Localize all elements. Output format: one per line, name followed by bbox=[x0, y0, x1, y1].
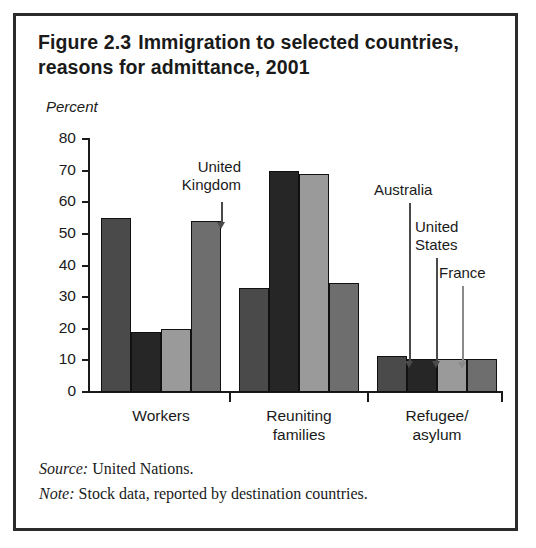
y-tick-label: 10 bbox=[36, 350, 76, 368]
source-text: United Nations. bbox=[92, 460, 193, 477]
source-line: Source: United Nations. bbox=[39, 456, 499, 481]
callout-united-kingdom-line2: Kingdom bbox=[166, 176, 241, 194]
callout-australia-line1: Australia bbox=[374, 181, 466, 199]
y-tick-label: 20 bbox=[36, 319, 76, 337]
callout-united-states: United States bbox=[415, 218, 495, 254]
bar-united-kingdom bbox=[329, 283, 359, 392]
bar-group bbox=[239, 139, 359, 392]
arrow-head-france-icon bbox=[458, 362, 466, 369]
bar-united-states bbox=[131, 332, 161, 392]
y-tick-label: 80 bbox=[36, 129, 76, 147]
figure-footer: Source: United Nations. Note: Stock data… bbox=[39, 456, 499, 506]
callout-australia: Australia bbox=[374, 181, 466, 199]
bar-united-kingdom bbox=[191, 221, 221, 392]
category-label-line2: asylum bbox=[357, 425, 517, 444]
category-label-line1: Workers bbox=[81, 406, 241, 425]
category-label: Workers bbox=[81, 406, 241, 425]
figure-frame: Figure 2.3Immigration to selected countr… bbox=[13, 13, 518, 531]
arrow-france bbox=[462, 286, 464, 364]
callout-france: France bbox=[439, 264, 514, 282]
bar-australia bbox=[101, 218, 131, 392]
y-tick-label: 50 bbox=[36, 224, 76, 242]
note-line: Note: Stock data, reported by destinatio… bbox=[39, 481, 499, 506]
bar-united-kingdom bbox=[467, 359, 497, 392]
arrow-head-australia-icon bbox=[405, 361, 413, 368]
note-text: Stock data, reported by destination coun… bbox=[79, 485, 368, 502]
arrow-head-united-states-icon bbox=[432, 361, 440, 368]
arrow-united-kingdom bbox=[221, 202, 223, 224]
x-tick bbox=[367, 393, 369, 402]
callout-united-kingdom-line1: United bbox=[166, 158, 241, 176]
x-tick bbox=[229, 393, 231, 402]
callout-united-kingdom: United Kingdom bbox=[166, 158, 241, 194]
x-tick-end bbox=[501, 393, 503, 402]
arrow-head-united-kingdom-icon bbox=[217, 222, 225, 229]
bar-france bbox=[299, 174, 329, 392]
category-label: Refugee/asylum bbox=[357, 406, 517, 444]
bar-australia bbox=[377, 356, 407, 392]
bar-united-states bbox=[269, 171, 299, 392]
source-label: Source: bbox=[39, 460, 88, 477]
category-label-line2: families bbox=[219, 425, 379, 444]
y-tick-label: 70 bbox=[36, 161, 76, 179]
bar-australia bbox=[239, 288, 269, 392]
note-label: Note: bbox=[39, 485, 75, 502]
bar-france bbox=[161, 329, 191, 392]
category-label-line1: Reuniting bbox=[219, 406, 379, 425]
y-tick-label: 30 bbox=[36, 287, 76, 305]
category-label: Reunitingfamilies bbox=[219, 406, 379, 444]
category-label-line1: Refugee/ bbox=[357, 406, 517, 425]
y-tick-label: 40 bbox=[36, 256, 76, 274]
callout-united-states-line2: States bbox=[415, 236, 495, 254]
y-tick-label: 60 bbox=[36, 192, 76, 210]
arrow-australia bbox=[409, 203, 411, 363]
callout-united-states-line1: United bbox=[415, 218, 495, 236]
arrow-united-states bbox=[436, 258, 438, 363]
callout-france-line1: France bbox=[439, 264, 514, 282]
y-tick-label: 0 bbox=[36, 382, 76, 400]
